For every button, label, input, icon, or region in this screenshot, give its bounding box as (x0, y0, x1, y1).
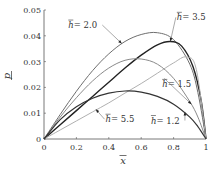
series-line-2 (44, 59, 206, 139)
series-line-3 (44, 57, 206, 139)
annotation-label: h= 3.5 (177, 12, 206, 22)
annotations: h= 2.0h= 3.5h= 1.5h= 5.5h= 1.2 (68, 12, 205, 125)
y-tick-label: 0.05 (23, 6, 41, 15)
x-axis-label-text: x (120, 155, 126, 166)
y-tick-label: 0 (36, 135, 41, 144)
annotation-arrow-line (170, 17, 175, 41)
y-axis-label: p (1, 72, 12, 79)
x-tick-label: 0.6 (135, 143, 148, 152)
x-tick-label: 1 (203, 143, 208, 152)
y-tick-label: 0.03 (23, 58, 41, 67)
annotation-label: h= 2.0 (68, 20, 97, 30)
annotation-4: h= 1.2 (151, 112, 186, 126)
annotation-label: h= 1.2 (151, 116, 180, 126)
annotation-3: h= 5.5 (96, 109, 135, 124)
annotation-1: h= 3.5 (170, 12, 206, 41)
y-axis-label-text: p (1, 72, 12, 79)
annotation-0: h= 2.0 (68, 20, 121, 43)
line-chart: 00.20.40.60.8100.010.020.030.040.05 h= 2… (0, 0, 212, 172)
series-line-1 (44, 41, 206, 139)
x-axis-label: x (120, 155, 127, 166)
annotation-arrow-line (102, 25, 121, 43)
x-tick-label: 0.2 (70, 143, 83, 152)
y-tick-label: 0.01 (23, 109, 41, 118)
annotation-label: h= 5.5 (106, 114, 135, 124)
x-tick-label: 0.8 (167, 143, 180, 152)
y-tick-label: 0.04 (23, 32, 41, 41)
chart-container: 00.20.40.60.8100.010.020.030.040.05 h= 2… (0, 0, 212, 172)
y-tick-label: 0.02 (23, 83, 41, 92)
x-tick-label: 0 (41, 143, 46, 152)
x-tick-label: 0.4 (102, 143, 115, 152)
